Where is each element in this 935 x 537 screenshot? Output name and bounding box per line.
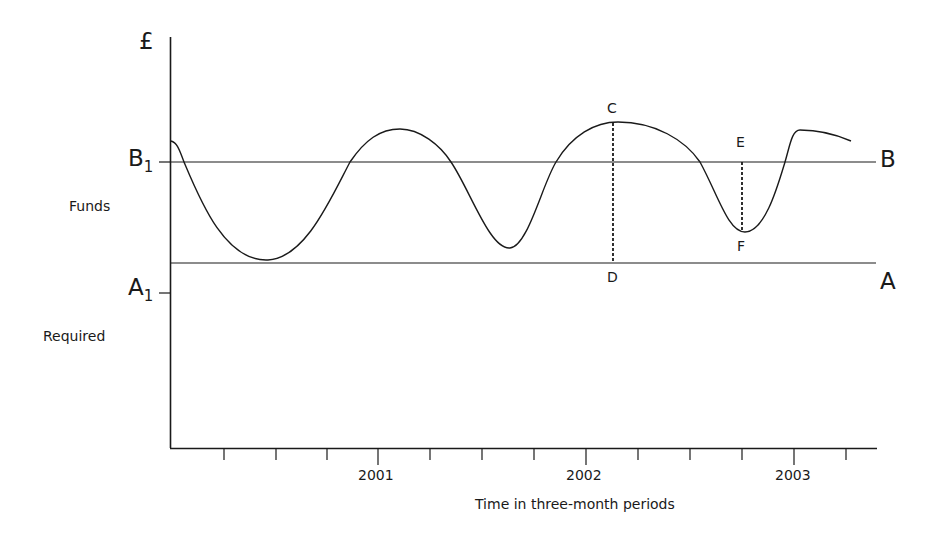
line-b-right-label: B	[880, 146, 896, 172]
y-axis-unit-label: £	[139, 28, 154, 54]
x-tick-label-2001: 2001	[358, 467, 394, 483]
a1-label-main: A	[128, 274, 144, 300]
x-tick-label-2002: 2002	[566, 467, 602, 483]
b1-label: B1	[128, 145, 153, 176]
point-c-label: C	[607, 100, 617, 116]
line-a-right-label: A	[880, 268, 896, 294]
x-axis-title: Time in three-month periods	[475, 496, 675, 512]
x-tick-label-2003: 2003	[775, 467, 811, 483]
required-label: Required	[43, 328, 105, 344]
point-e-label: E	[736, 134, 745, 150]
a1-label-sub: 1	[144, 287, 154, 305]
point-f-label: F	[737, 238, 745, 254]
funds-diagram	[0, 0, 935, 537]
funds-label: Funds	[69, 198, 110, 214]
point-d-label: D	[607, 269, 618, 285]
a1-label: A1	[128, 274, 153, 305]
b1-label-sub: 1	[144, 158, 154, 176]
funds-curve	[171, 122, 851, 260]
x-ticks	[224, 448, 846, 465]
b1-label-main: B	[128, 145, 144, 171]
